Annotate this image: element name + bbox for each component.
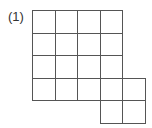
grid-cell: [122, 78, 146, 102]
grid-cell: [77, 55, 101, 79]
grid-cell: [77, 33, 101, 57]
grid-cell: [100, 33, 124, 57]
grid-cell: [100, 10, 124, 34]
grid-cell: [100, 55, 124, 79]
grid-cell: [77, 10, 101, 34]
grid-cell: [32, 10, 56, 34]
grid-cell: [122, 100, 146, 124]
grid-cell: [77, 78, 101, 102]
grid-cell: [55, 78, 79, 102]
grid-cell: [100, 100, 124, 124]
grid-cell: [32, 55, 56, 79]
grid-cell: [55, 55, 79, 79]
problem-label: (1): [8, 10, 24, 24]
grid-cell: [55, 10, 79, 34]
grid-cell: [32, 78, 56, 102]
grid-cell: [100, 78, 124, 102]
grid-cell: [55, 33, 79, 57]
grid-cell: [32, 33, 56, 57]
